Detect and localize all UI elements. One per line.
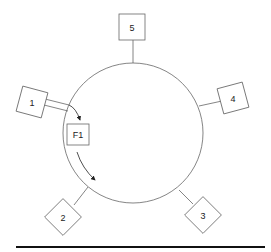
frame-f1[interactable]: F1 [67, 124, 89, 145]
insert-arrow [69, 105, 80, 120]
frame-f1-label: F1 [73, 130, 84, 140]
node-2[interactable]: 2 [45, 187, 88, 235]
node-4-label: 4 [230, 94, 235, 104]
node-3[interactable]: 3 [179, 190, 221, 233]
node-2-label: 2 [60, 213, 65, 223]
circulation-arrow [77, 152, 95, 180]
ring-diagram: 5 4 3 2 1 F1 [0, 0, 271, 252]
node-1-label: 1 [29, 98, 34, 108]
node-1[interactable]: 1 [16, 86, 69, 118]
node-3-label: 3 [200, 211, 205, 221]
node-5-label: 5 [129, 23, 134, 33]
node-4[interactable]: 4 [199, 82, 249, 114]
node-5[interactable]: 5 [119, 14, 145, 63]
